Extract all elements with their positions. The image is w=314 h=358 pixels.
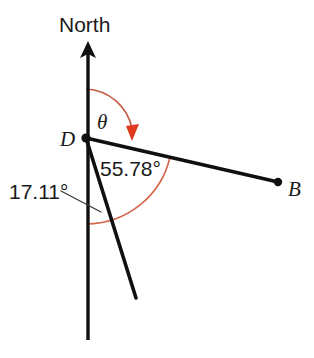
theta-label: θ [97,110,107,134]
point-b-label: B [288,177,301,201]
north-label: North [59,13,110,36]
angle-arc-theta [86,89,132,129]
vertex-d-label: D [59,127,75,151]
angle-17-label: 17.11° [9,180,68,203]
point-b-marker [274,178,282,186]
angle-55-label: 55.78° [100,157,161,180]
diagram-canvas: North D B θ 55.78° 17.11° [0,0,314,358]
theta-arrowhead-icon [126,124,139,141]
bearing-diagram-figure: North D B θ 55.78° 17.11° [0,0,314,358]
point-d-marker [81,133,90,142]
